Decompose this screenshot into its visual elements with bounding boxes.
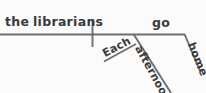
word-subject-librarians: librarians: [33, 16, 103, 29]
word-verb-go: go: [152, 17, 170, 30]
sentence-diagram: the librarians go Each afternoon home: [0, 0, 206, 93]
word-determiner-the: the: [5, 16, 29, 29]
